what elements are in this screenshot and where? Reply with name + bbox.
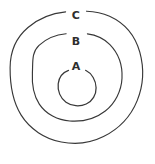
concentric-circles-diagram: C B A (0, 0, 155, 164)
circle-label-b: B (62, 36, 90, 48)
circle-outer-c (10, 11, 142, 143)
diagram-canvas (0, 0, 155, 164)
circle-inner-a (58, 70, 96, 106)
circle-label-c: C (62, 10, 90, 22)
circle-label-a: A (62, 61, 90, 73)
